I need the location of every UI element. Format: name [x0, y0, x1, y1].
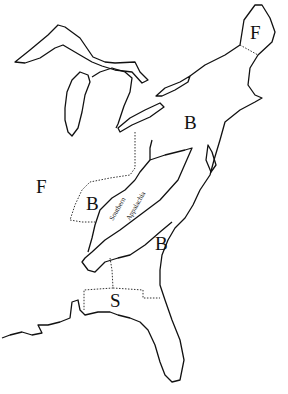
region-label-s-southeast: S	[110, 290, 121, 312]
lake-huron	[92, 68, 132, 128]
boundary-south	[84, 258, 160, 310]
region-label-b-south: B	[155, 233, 168, 255]
region-label-f-west: F	[36, 176, 47, 198]
region-label-b-west: B	[86, 193, 99, 215]
lake-erie	[118, 103, 164, 132]
boundary-maine	[240, 45, 258, 55]
appalachia-inner	[135, 160, 150, 180]
boundary-ohio	[70, 132, 135, 222]
lake-ontario	[156, 76, 190, 96]
region-label-f-northeast: F	[250, 22, 261, 44]
lake-michigan	[65, 72, 90, 136]
chesapeake-bay	[206, 145, 216, 172]
region-label-b-northeast: B	[184, 112, 197, 134]
